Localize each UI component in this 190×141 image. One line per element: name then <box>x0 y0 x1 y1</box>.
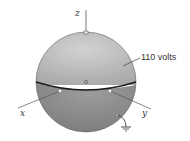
upper-hemisphere <box>30 30 150 85</box>
top-contact <box>84 31 88 34</box>
ground-icon <box>121 127 131 131</box>
sphere-svg <box>0 0 190 141</box>
x-axis-label: x <box>20 108 25 118</box>
x-axis-point <box>59 90 62 93</box>
y-axis-label: y <box>142 108 147 118</box>
charged-sphere-diagram: z x y 110 volts <box>0 0 190 141</box>
z-axis-label: z <box>75 8 80 18</box>
y-axis-point <box>109 90 112 93</box>
voltage-label: 110 volts <box>141 52 176 62</box>
